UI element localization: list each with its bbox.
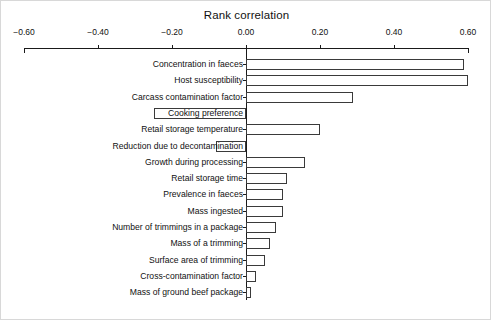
bar-label: Carcass contamination factor xyxy=(132,90,246,105)
bar xyxy=(246,287,251,298)
bar-row: Surface area of trimming xyxy=(1,253,491,268)
bar xyxy=(246,173,287,184)
bar-row: Reduction due to decontamination xyxy=(1,139,491,154)
bar xyxy=(246,59,464,70)
bar-row: Number of trimmings in a package xyxy=(1,220,491,235)
bar xyxy=(246,157,305,168)
x-axis-tick-label: 0.20 xyxy=(312,27,329,37)
bar-label: Mass of ground beef package xyxy=(130,285,246,300)
bar xyxy=(246,189,283,200)
bar-row: Concentration in faeces xyxy=(1,57,491,72)
bar-row: Retail storage temperature xyxy=(1,122,491,137)
x-axis-tick-label: −0.60 xyxy=(13,27,35,37)
chart-figure: Rank correlation −0.60−0.40−0.200.000.20… xyxy=(0,0,491,320)
bar-row: Growth during processing xyxy=(1,155,491,170)
x-axis-tick-label: −0.20 xyxy=(161,27,183,37)
x-axis-tick-label: 0.00 xyxy=(238,27,255,37)
bar-label: Host susceptibility xyxy=(174,73,246,88)
bar-label: Cross-contamination factor xyxy=(140,269,246,284)
bar-row: Mass of a trimming xyxy=(1,236,491,251)
bar xyxy=(246,238,270,249)
bar-row: Mass of ground beef package xyxy=(1,285,491,300)
bar-label: Number of trimmings in a package xyxy=(112,220,246,235)
bar xyxy=(246,255,265,266)
bar-label: Retail storage time xyxy=(171,171,246,186)
bar-row: Retail storage time xyxy=(1,171,491,186)
bar-label: Growth during processing xyxy=(145,155,246,170)
bar xyxy=(246,92,353,103)
bar-row: Carcass contamination factor xyxy=(1,90,491,105)
x-axis-tick-label: 0.60 xyxy=(460,27,477,37)
x-axis-tick-mark xyxy=(468,48,469,53)
bar-row: Host susceptibility xyxy=(1,73,491,88)
bar xyxy=(246,206,283,217)
bar xyxy=(246,222,276,233)
bar-label: Reduction due to decontamination xyxy=(113,139,246,154)
bar-row: Cooking preference xyxy=(1,106,491,121)
bar-row: Prevalence in faeces xyxy=(1,187,491,202)
bar-label: Surface area of trimming xyxy=(149,253,246,268)
bar xyxy=(246,75,468,86)
bar-label: Mass of a trimming xyxy=(170,236,246,251)
bar-label: Concentration in faeces xyxy=(153,57,246,72)
bar-label: Cooking preference xyxy=(168,106,246,121)
x-axis-tick-label: 0.40 xyxy=(386,27,403,37)
bar-row: Mass ingested xyxy=(1,204,491,219)
bar-label: Retail storage temperature xyxy=(141,122,246,137)
bar-row: Cross-contamination factor xyxy=(1,269,491,284)
bar xyxy=(246,271,256,282)
bar xyxy=(246,124,320,135)
bar-label: Mass ingested xyxy=(188,204,246,219)
x-axis-tick-label: −0.40 xyxy=(87,27,109,37)
bar-label: Prevalence in faeces xyxy=(163,187,246,202)
